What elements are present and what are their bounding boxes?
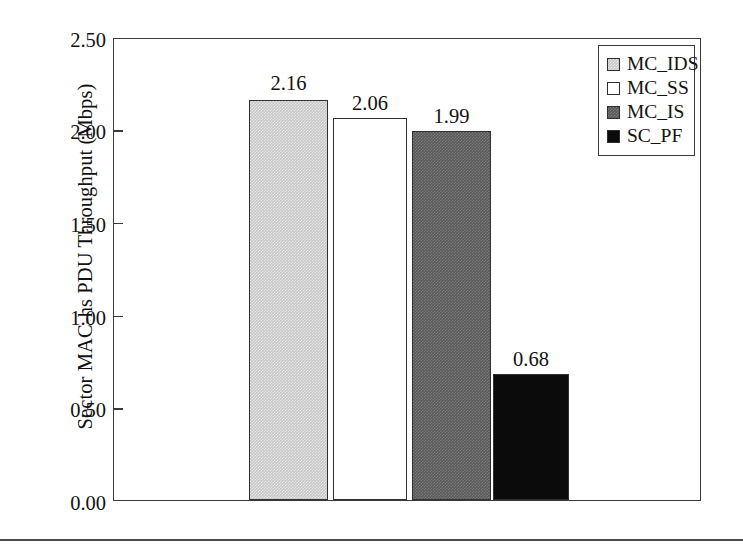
page-divider-rule (0, 539, 743, 541)
bar-mc-ids[interactable] (249, 100, 328, 500)
y-tick-label-0-50: 0.50 (32, 400, 106, 421)
bar-mc-is[interactable] (412, 131, 491, 500)
y-tick-label-1-00: 1.00 (32, 308, 106, 329)
legend-label-mc-ids: MC_IDS (627, 54, 699, 74)
y-tick-label-0-00: 0.00 (32, 493, 106, 514)
y-axis-tick-labels: 2.50 2.00 1.50 1.00 0.50 0.00 (30, 0, 106, 551)
y-tick-label-1-50: 1.50 (32, 215, 106, 236)
y-tick-label-2-50: 2.50 (32, 30, 106, 51)
legend-item-mc-is[interactable]: MC_IS (607, 100, 686, 124)
bar-value-label-mc-is: 1.99 (412, 106, 491, 127)
legend-label-mc-ss: MC_SS (627, 78, 689, 98)
legend-item-mc-ids[interactable]: MC_IDS (607, 52, 686, 76)
legend-swatch-icon-mc-is (607, 106, 620, 119)
bar-mc-ss[interactable] (333, 118, 407, 500)
legend-swatch-icon-mc-ss (607, 82, 620, 95)
legend-swatch-icon-sc-pf (607, 130, 620, 143)
legend: MC_IDS MC_SS MC_IS SC_PF (598, 45, 695, 156)
legend-label-mc-is: MC_IS (627, 102, 684, 122)
bar-value-label-sc-pf: 0.68 (493, 349, 569, 370)
y-tick-label-2-00: 2.00 (32, 122, 106, 143)
bar-value-label-mc-ss: 2.06 (333, 93, 407, 114)
bar-chart-figure: Sector MAC-hs PDU Throughput (Mbps) 2.50… (0, 0, 743, 551)
legend-label-sc-pf: SC_PF (627, 126, 682, 146)
bar-sc-pf[interactable] (493, 374, 569, 500)
legend-item-mc-ss[interactable]: MC_SS (607, 76, 686, 100)
legend-swatch-icon-mc-ids (607, 58, 620, 71)
bar-value-label-mc-ids: 2.16 (249, 73, 328, 94)
legend-item-sc-pf[interactable]: SC_PF (607, 124, 686, 148)
